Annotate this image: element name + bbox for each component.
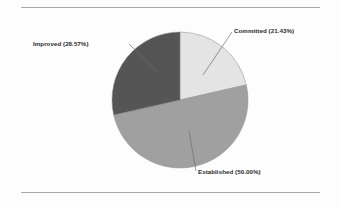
pie-label-improved: Improved (28.57%) bbox=[33, 40, 89, 47]
pie-label-established: Established (50.00%) bbox=[198, 168, 261, 175]
pie-slice-group bbox=[112, 32, 248, 168]
pie-chart-figure: Committed (21.43%) Established (50.00%) … bbox=[0, 0, 340, 207]
horizontal-rule-bottom bbox=[21, 192, 320, 193]
pie-label-committed: Committed (21.43%) bbox=[234, 27, 294, 34]
